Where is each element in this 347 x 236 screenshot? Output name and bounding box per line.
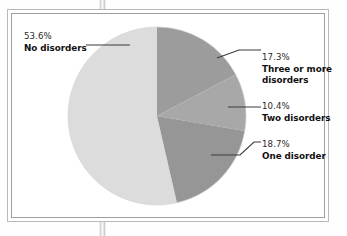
label-three-or-more-disorders: 17.3% Three or more disorders <box>262 52 332 87</box>
label-three-or-more-percent: 17.3% <box>262 52 332 64</box>
label-one-disorder-percent: 18.7% <box>262 139 326 151</box>
label-one-disorder: 18.7% One disorder <box>262 139 326 162</box>
label-one-disorder-caption: One disorder <box>262 151 326 163</box>
label-two-disorders: 10.4% Two disorders <box>262 101 330 124</box>
label-two-disorders-caption: Two disorders <box>262 113 330 125</box>
label-no-disorders-caption: No disorders <box>24 43 87 55</box>
label-no-disorders: 53.6% No disorders <box>24 31 87 54</box>
label-three-or-more-caption-line1: Three or more <box>262 64 332 76</box>
scanned-page: 53.6% No disorders 17.3% Three or more d… <box>0 0 347 236</box>
label-two-disorders-percent: 10.4% <box>262 101 330 113</box>
label-three-or-more-caption-line2: disorders <box>262 75 332 87</box>
label-no-disorders-percent: 53.6% <box>24 31 87 43</box>
